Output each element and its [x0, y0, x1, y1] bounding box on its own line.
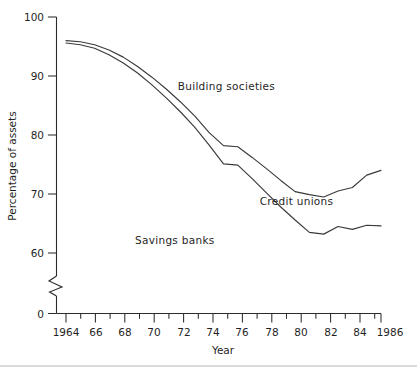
series-line-credit-unions [66, 43, 381, 234]
x-tick-label-1976: 76 [235, 326, 249, 338]
annotation-savings-banks: Savings banks [135, 234, 215, 246]
x-tick-marks [66, 314, 381, 323]
chart-container: 100 90 80 70 60 0 Percentage of assets [0, 0, 417, 367]
x-tick-label-1982: 82 [324, 326, 337, 338]
series-line-building-societies [66, 41, 381, 197]
y-tick-label-70: 70 [31, 188, 44, 200]
x-tick-label-1964: 1964 [53, 326, 80, 338]
y-tick-label-60: 60 [31, 247, 44, 259]
series-label-building-societies: Building societies [178, 80, 275, 92]
y-axis-group: 100 90 80 70 60 0 Percentage of assets [6, 11, 62, 320]
x-tick-label-1972: 72 [177, 326, 190, 338]
y-tick-label-0: 0 [37, 308, 44, 320]
x-tick-label-1986: 1986 [377, 326, 404, 338]
y-tick-label-90: 90 [31, 70, 44, 82]
y-tick-label-100: 100 [24, 11, 44, 23]
x-tick-labels: 1964 66 68 70 72 74 76 78 80 82 84 1986 [53, 326, 404, 338]
x-tick-label-1974: 74 [206, 326, 220, 338]
series-annotations: Building societies Credit unions Savings… [135, 80, 333, 245]
series-label-credit-unions: Credit unions [260, 195, 334, 207]
x-tick-label-1966: 66 [89, 326, 103, 338]
y-tick-label-80: 80 [31, 129, 44, 141]
x-axis-title: Year [211, 344, 235, 356]
x-tick-label-1970: 70 [147, 326, 160, 338]
line-chart: 100 90 80 70 60 0 Percentage of assets [0, 0, 417, 367]
x-tick-label-1980: 80 [294, 326, 307, 338]
y-axis-title: Percentage of assets [6, 111, 18, 220]
y-axis-break-icon [49, 276, 62, 296]
x-axis-group: 1964 66 68 70 72 74 76 78 80 82 84 1986 … [53, 314, 404, 357]
x-tick-label-1968: 68 [118, 326, 131, 338]
series-group [66, 41, 381, 235]
x-tick-label-1984: 84 [353, 326, 367, 338]
x-tick-label-1978: 78 [265, 326, 278, 338]
